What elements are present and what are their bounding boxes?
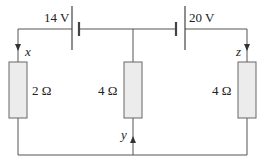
resistor-4ohm-right: [238, 62, 256, 118]
current-y-label: y: [121, 128, 127, 141]
battery-20v-label: 20 V: [189, 11, 214, 24]
resistor-2ohm-label: 2 Ω: [32, 84, 51, 97]
arrow-y-icon: [130, 136, 136, 143]
battery-20v: [176, 6, 185, 50]
circuit-diagram: [0, 0, 264, 159]
current-x-label: x: [25, 45, 31, 58]
resistor-4ohm-right-label: 4 Ω: [212, 84, 231, 97]
resistor-4ohm-middle: [124, 62, 142, 118]
resistor-4ohm-middle-label: 4 Ω: [98, 84, 117, 97]
battery-14v: [72, 6, 79, 50]
arrow-z-icon: [244, 44, 250, 51]
arrow-x-icon: [15, 44, 21, 51]
current-z-label: z: [236, 45, 241, 58]
battery-14v-label: 14 V: [44, 11, 69, 24]
resistor-2ohm: [9, 62, 27, 118]
